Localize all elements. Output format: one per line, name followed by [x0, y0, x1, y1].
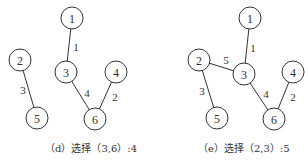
node-label: 3	[241, 68, 247, 82]
node-label: 2	[196, 54, 202, 68]
edge-weight-label: 1	[250, 42, 256, 54]
mst-diagram: 134212345615342123456	[0, 0, 305, 160]
node-4: 4	[105, 61, 127, 83]
node-5: 5	[206, 107, 228, 129]
edge-weight-label: 2	[290, 91, 296, 103]
node-3: 3	[233, 63, 255, 85]
node-5: 5	[26, 107, 48, 129]
node-label: 4	[113, 66, 119, 80]
node-1: 1	[61, 7, 83, 29]
edge-weight-label: 3	[199, 85, 205, 97]
edge-weight-label: 4	[263, 88, 269, 100]
node-2: 2	[188, 49, 210, 71]
edge-weight-label: 3	[20, 84, 26, 96]
node-4: 4	[282, 61, 304, 83]
edge-weight-label: 1	[73, 41, 79, 53]
node-3: 3	[55, 61, 77, 83]
graph-panel-d: 1342123456	[9, 7, 127, 130]
node-label: 6	[92, 113, 98, 127]
caption-d: （d）选择（3,6）:4	[45, 140, 137, 155]
node-1: 1	[239, 7, 261, 29]
node-6: 6	[84, 108, 106, 130]
node-6: 6	[263, 108, 285, 130]
node-label: 5	[214, 112, 220, 126]
node-label: 6	[271, 113, 277, 127]
node-label: 4	[290, 66, 296, 80]
caption-e: （e）选择（2,3）:5	[198, 140, 290, 155]
node-2: 2	[9, 49, 31, 71]
edge-weight-label: 5	[223, 54, 229, 66]
edge-weight-label: 2	[112, 91, 118, 103]
graph-panel-e: 15342123456	[188, 7, 304, 130]
node-label: 5	[34, 112, 40, 126]
edge-weight-label: 4	[84, 87, 90, 99]
node-label: 2	[17, 54, 23, 68]
node-label: 1	[247, 12, 253, 26]
node-label: 3	[63, 66, 69, 80]
node-label: 1	[69, 12, 75, 26]
